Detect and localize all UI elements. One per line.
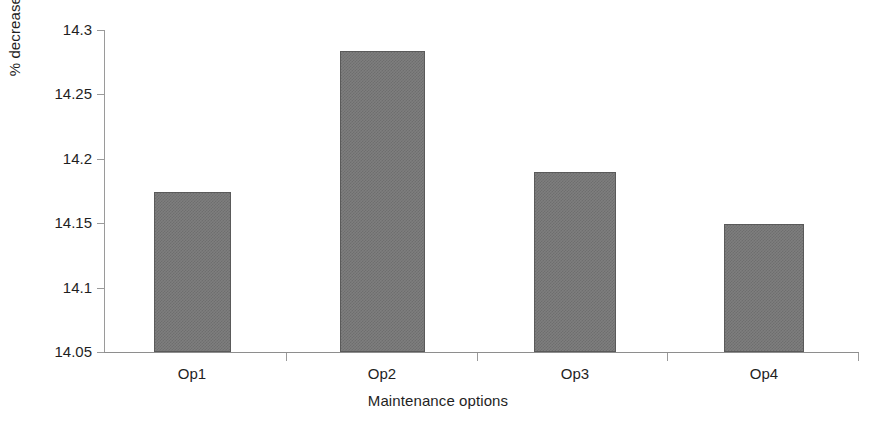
x-axis-line [104, 352, 859, 353]
x-tick-mark-3 [667, 353, 668, 361]
y-tick-label-14-2: 14.2 [32, 151, 92, 166]
y-tick-label-14-05: 14.05 [32, 344, 92, 359]
y-tick-label-wrap-14-15: 14.15 [30, 215, 92, 230]
y-tick-label-wrap-14-1: 14.1 [30, 280, 92, 295]
bar-chart: % decrease in LCoE 14.3 14.25 14.2 14.15… [0, 0, 876, 431]
bar-op3[interactable] [534, 172, 616, 352]
y-tick-mark-14-15 [97, 223, 104, 224]
y-tick-mark-14-25 [97, 94, 104, 95]
bar-op4[interactable] [724, 224, 804, 352]
x-tick-label-op3: Op3 [515, 365, 635, 383]
x-tick-mark-4 [858, 353, 859, 361]
y-tick-label-wrap-14-3: 14.3 [30, 22, 92, 37]
y-axis-title: % decrease in LCoE [4, 0, 26, 122]
y-tick-mark-14-3 [97, 30, 104, 31]
y-tick-mark-14-2 [97, 159, 104, 160]
y-axis-line [104, 30, 105, 353]
y-tick-label-wrap-14-2: 14.2 [30, 151, 92, 166]
y-tick-label-14-15: 14.15 [32, 215, 92, 230]
y-tick-label-14-1: 14.1 [32, 280, 92, 295]
x-axis-title: Maintenance options [0, 392, 876, 409]
y-tick-label-14-25: 14.25 [32, 86, 92, 101]
x-tick-label-op2: Op2 [322, 365, 442, 383]
x-tick-mark-2 [477, 353, 478, 361]
y-tick-mark-14-05 [97, 352, 104, 353]
y-tick-label-wrap-14-05: 14.05 [30, 344, 92, 359]
bar-op2[interactable] [340, 51, 425, 352]
y-tick-label-14-3: 14.3 [32, 22, 92, 37]
bar-op1[interactable] [154, 192, 231, 352]
x-tick-mark-1 [286, 353, 287, 361]
y-tick-label-wrap-14-25: 14.25 [30, 86, 92, 101]
y-tick-mark-14-1 [97, 288, 104, 289]
x-tick-label-op1: Op1 [132, 365, 252, 383]
x-tick-label-op4: Op4 [704, 365, 824, 383]
